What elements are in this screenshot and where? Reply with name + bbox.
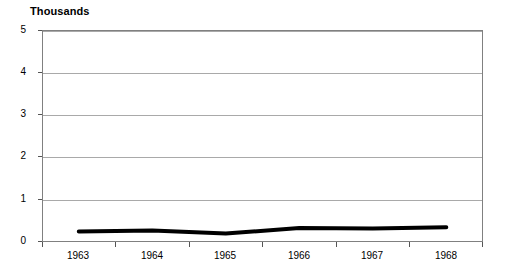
- xtick-mark-2: [189, 242, 190, 247]
- xtick-mark-6: [482, 242, 483, 247]
- chart-container: Thousands 5 4 3 2 1 0 1963 1964 1965 196…: [0, 0, 512, 279]
- xtick-mark-0: [42, 242, 43, 247]
- xtick-label-1964: 1964: [122, 250, 182, 261]
- ytick-mark-3: [38, 114, 42, 115]
- xtick-label-1966: 1966: [269, 250, 329, 261]
- xtick-label-1965: 1965: [195, 250, 255, 261]
- xtick-mark-1: [115, 242, 116, 247]
- ytick-mark-1: [38, 199, 42, 200]
- xtick-mark-3: [262, 242, 263, 247]
- xtick-label-1968: 1968: [416, 250, 476, 261]
- ytick-label-4: 4: [0, 67, 26, 77]
- ytick-label-2: 2: [0, 151, 26, 161]
- xtick-mark-5: [409, 242, 410, 247]
- units-label: Thousands: [30, 5, 90, 17]
- ytick-label-0: 0: [0, 236, 26, 246]
- xtick-label-1963: 1963: [48, 250, 108, 261]
- data-series-line: [42, 30, 483, 242]
- ytick-label-1: 1: [0, 194, 26, 204]
- ytick-mark-2: [38, 156, 42, 157]
- ytick-mark-4: [38, 72, 42, 73]
- xtick-label-1967: 1967: [342, 250, 402, 261]
- ytick-label-5: 5: [0, 25, 26, 35]
- series-1-polyline: [79, 227, 447, 233]
- xtick-mark-4: [336, 242, 337, 247]
- ytick-label-3: 3: [0, 109, 26, 119]
- ytick-mark-5: [38, 30, 42, 31]
